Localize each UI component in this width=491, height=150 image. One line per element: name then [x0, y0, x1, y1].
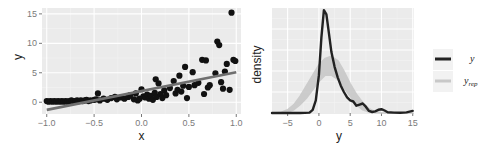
data-point	[155, 80, 161, 86]
data-point	[201, 91, 207, 97]
data-point	[186, 84, 192, 90]
data-point	[178, 89, 184, 95]
data-point	[216, 42, 222, 48]
x-axis-title: x	[139, 129, 145, 143]
x-tick-label: 1.0	[230, 118, 243, 128]
x-axis-title: y	[336, 129, 342, 143]
x-tick-label: 10	[376, 118, 386, 128]
data-point	[163, 92, 169, 98]
y-tick-label: 10	[27, 38, 37, 48]
legend-label-y: y	[469, 53, 475, 64]
y-tick-label: 0	[32, 97, 37, 107]
data-point	[203, 57, 209, 63]
panel-background	[272, 8, 414, 114]
y-tick-label: 15	[27, 9, 37, 19]
data-point	[220, 86, 226, 92]
data-point	[227, 87, 233, 93]
data-point	[224, 61, 230, 67]
y-tick-label: 5	[32, 68, 37, 78]
data-point	[232, 58, 238, 64]
legend: yyrep	[433, 49, 478, 92]
legend-label-subscript: rep	[468, 80, 478, 88]
y-axis-title: density	[250, 45, 264, 83]
scatter-panel: −1.0−0.50.00.51.0051015xy	[11, 8, 243, 143]
x-tick-label: 0	[316, 118, 321, 128]
data-point	[176, 73, 182, 79]
density-panel: −5051015ydensity	[250, 8, 418, 143]
data-point	[95, 90, 101, 96]
x-tick-label: 0.5	[183, 118, 196, 128]
data-point	[182, 64, 188, 70]
data-point	[228, 10, 234, 16]
y-axis-title: y	[11, 54, 25, 60]
data-point	[207, 82, 213, 88]
x-tick-label: 0.0	[135, 118, 148, 128]
x-tick-label: −5	[283, 118, 293, 128]
figure: −1.0−0.50.00.51.0051015xy−5051015ydensit…	[0, 0, 491, 150]
data-point	[184, 95, 190, 101]
x-tick-label: 15	[408, 118, 418, 128]
data-point	[218, 79, 224, 85]
x-tick-label: −1.0	[38, 118, 56, 128]
x-tick-label: 5	[348, 118, 353, 128]
x-tick-label: −0.5	[85, 118, 103, 128]
data-point	[190, 69, 196, 75]
plot-canvas: −1.0−0.50.00.51.0051015xy−5051015ydensit…	[0, 0, 491, 150]
legend-label-yrep: yrep	[463, 75, 478, 88]
